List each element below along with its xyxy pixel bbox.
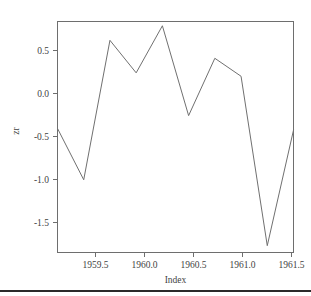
x-tick-label: 1959.5 bbox=[82, 260, 108, 270]
x-tick-label: 1961.0 bbox=[229, 260, 255, 270]
x-tick-label: 1960.0 bbox=[131, 260, 157, 270]
plot-frame bbox=[58, 22, 294, 253]
data-series-line bbox=[58, 26, 294, 246]
y-tick-label: -1.5 bbox=[34, 218, 49, 228]
x-axis-title: Index bbox=[165, 275, 187, 285]
y-tick-label: -1.0 bbox=[34, 175, 49, 185]
y-axis-title: zr bbox=[11, 126, 21, 134]
x-tick-label: 1961.5 bbox=[278, 260, 304, 270]
y-axis-ticks bbox=[53, 51, 58, 223]
chart-figure: 0.5 0.0 -0.5 -1.0 -1.5 1959.5 1960.0 196… bbox=[0, 0, 311, 296]
x-axis-ticks bbox=[96, 253, 292, 258]
y-tick-label: 0.5 bbox=[37, 46, 49, 56]
footer-spacer bbox=[0, 292, 311, 296]
y-tick-label: -0.5 bbox=[34, 132, 49, 142]
x-tick-label: 1960.5 bbox=[180, 260, 206, 270]
y-tick-label: 0.0 bbox=[37, 89, 49, 99]
line-chart: 0.5 0.0 -0.5 -1.0 -1.5 1959.5 1960.0 196… bbox=[0, 0, 311, 296]
